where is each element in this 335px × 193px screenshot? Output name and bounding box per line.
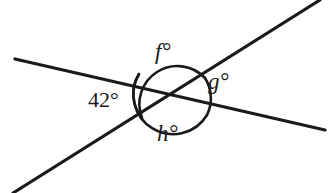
angle-label-42: 42° bbox=[88, 89, 119, 111]
geometry-figure: 42° f° g° h° bbox=[0, 0, 335, 193]
angle-label-h: h° bbox=[157, 122, 178, 145]
angle-label-g: g° bbox=[208, 70, 229, 93]
angle-label-f: f° bbox=[155, 40, 171, 63]
geometry-canvas bbox=[0, 0, 335, 193]
